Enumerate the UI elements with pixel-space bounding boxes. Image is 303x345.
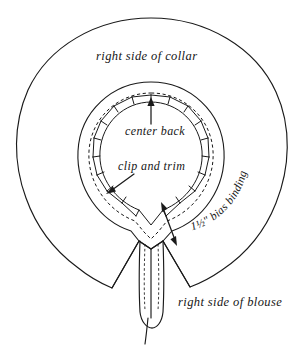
- binding-tail-left: [139, 241, 152, 328]
- binding-tail-stitch-left: [144, 244, 145, 310]
- bias-binding-label: 1½" bias binding: [189, 169, 250, 232]
- binding-tail-right: [152, 241, 164, 328]
- label-center-back: center back: [125, 125, 185, 137]
- clip-and-trim-arrow: [106, 174, 134, 194]
- label-clip-and-trim: clip and trim: [118, 160, 185, 172]
- label-right-side-of-blouse: right side of blouse: [178, 296, 282, 309]
- binding-tail-thread: [145, 318, 148, 344]
- blouse-v-left: [112, 241, 139, 288]
- center-back-arrow: [147, 97, 154, 124]
- blouse-v-right: [163, 241, 190, 287]
- label-right-side-of-collar: right side of collar: [96, 50, 197, 63]
- sewing-diagram-figure: 1½" bias binding right side of collar ce…: [0, 0, 303, 345]
- binding-tail-stitch-right: [158, 244, 159, 310]
